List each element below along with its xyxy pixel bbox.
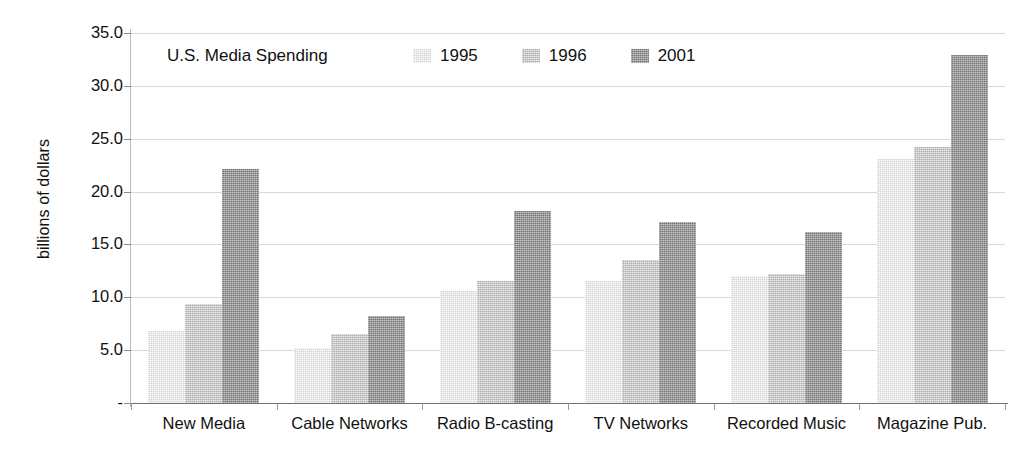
x-axis-category-label: New Media: [131, 414, 277, 433]
y-axis-tick-label: 20.0: [53, 182, 123, 201]
y-axis-tick: [124, 86, 131, 87]
x-axis-category-label: Recorded Music: [714, 414, 860, 433]
bar-group: [277, 33, 423, 403]
x-axis-category-label: Radio B-casting: [422, 414, 568, 433]
y-axis-tick: [124, 297, 131, 298]
legend-label: 1995: [440, 47, 478, 64]
legend-item: 1995: [413, 47, 478, 64]
bar: [585, 281, 622, 403]
x-axis-tick: [131, 403, 132, 410]
y-axis-tick-label: 5.0: [53, 340, 123, 359]
legend-swatch: [413, 49, 431, 63]
bar: [805, 232, 842, 403]
x-axis-category-label: Magazine Pub.: [859, 414, 1005, 433]
bar: [368, 316, 405, 403]
x-axis-category-label: Cable Networks: [277, 414, 423, 433]
bar: [294, 348, 331, 403]
y-axis-tick: [124, 139, 131, 140]
bar: [622, 260, 659, 403]
x-axis-tick: [568, 403, 569, 410]
x-axis-category-label: TV Networks: [568, 414, 714, 433]
legend-swatch: [522, 49, 540, 63]
x-axis-line: [124, 403, 1008, 404]
bar: [659, 222, 696, 403]
legend-item: 1996: [522, 47, 587, 64]
bar-group: [131, 33, 277, 403]
y-axis-tick-label: 25.0: [53, 129, 123, 148]
bar-group: [422, 33, 568, 403]
y-axis-title: billions of dollars: [35, 69, 53, 329]
y-axis-tick: [124, 244, 131, 245]
y-axis-tick-label: 10.0: [53, 287, 123, 306]
bar-group: [859, 33, 1005, 403]
x-axis-tick: [277, 403, 278, 410]
y-axis-tick: [124, 350, 131, 351]
bar-group: [714, 33, 860, 403]
x-axis-tick: [859, 403, 860, 410]
bar: [185, 304, 222, 403]
y-axis-tick-label: 30.0: [53, 76, 123, 95]
bar: [331, 334, 368, 403]
legend-label: 1996: [549, 47, 587, 64]
bar: [514, 211, 551, 403]
bar: [951, 55, 988, 403]
chart-legend: 199519962001: [413, 47, 695, 64]
bar: [440, 291, 477, 403]
y-axis-tick-label: -: [53, 393, 123, 412]
legend-swatch: [631, 49, 649, 63]
bar: [222, 169, 259, 403]
legend-item: 2001: [631, 47, 696, 64]
y-axis-tick-label: 35.0: [53, 23, 123, 42]
y-axis-tick: [124, 33, 131, 34]
chart-title: U.S. Media Spending: [167, 46, 328, 66]
bar: [768, 274, 805, 403]
legend-label: 2001: [658, 47, 696, 64]
bar: [914, 147, 951, 403]
x-axis-tick: [714, 403, 715, 410]
x-axis-tick: [422, 403, 423, 410]
plot-area: [131, 33, 1005, 403]
y-axis-tick-label: 15.0: [53, 234, 123, 253]
bar: [148, 331, 185, 403]
bar: [877, 159, 914, 403]
bar-group: [568, 33, 714, 403]
y-axis-tick: [124, 403, 131, 404]
bar: [731, 276, 768, 403]
y-axis-tick: [124, 192, 131, 193]
bar: [477, 281, 514, 403]
chart-figure: billions of dollars U.S. Media Spending …: [0, 0, 1023, 458]
x-axis-tick: [1005, 403, 1006, 410]
